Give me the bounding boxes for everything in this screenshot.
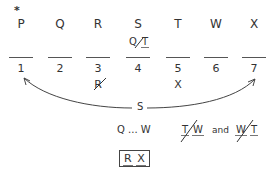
- diagram-graphics: [0, 0, 279, 184]
- arrow-to-slot-1: [24, 78, 132, 108]
- arrow-to-slot-7: [147, 79, 255, 108]
